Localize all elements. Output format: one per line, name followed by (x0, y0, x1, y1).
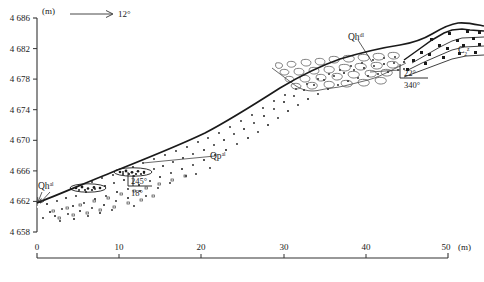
y-tick-label-4658: 4 658 (10, 227, 31, 237)
y-tick-label-4678: 4 678 (10, 74, 31, 84)
unit-qh-upper-base: Qh (348, 32, 360, 42)
y-axis-unit-label: (m) (42, 6, 55, 16)
dip-left-top-value: 245° (131, 176, 147, 186)
x-tick-label-30: 30 (280, 242, 290, 252)
dip-left-bottom-value: 18° (131, 188, 143, 198)
x-tick-label-0: 0 (35, 242, 40, 252)
legend-slope-symbol: 12° (70, 9, 131, 19)
unit-label-qh-upper: Qhdl (348, 32, 364, 43)
x-tick-label-10: 10 (115, 242, 125, 252)
x-axis: 0 10 20 30 40 50 (m) (35, 242, 471, 258)
x-tick-label-50: 50 (442, 242, 452, 252)
x-tick-label-20: 20 (197, 242, 207, 252)
legend-slope-label: 12° (118, 9, 131, 19)
unit-qh-lower-base: Qh (38, 181, 50, 191)
x-tick-label-40: 40 (362, 242, 372, 252)
unit-label-qp: Qpal (210, 151, 226, 162)
svg-text:Qhal: Qhal (38, 181, 54, 192)
x-axis-unit-label: (m) (458, 242, 471, 252)
y-tick-label-4674: 4 674 (10, 105, 31, 115)
dip-right-top-value: 22° (404, 68, 416, 78)
cross-section-svg: 4 686 4 682 4 678 4 674 4 670 4 666 4 66… (0, 0, 484, 282)
svg-text:Qpal: Qpal (210, 151, 226, 162)
unit-qp-sup: al (222, 151, 226, 157)
unit-qh-upper-sup: dl (360, 32, 365, 38)
figure-root: 4 686 4 682 4 678 4 674 4 670 4 666 4 66… (0, 0, 484, 282)
svg-text:Qhdl: Qhdl (348, 32, 364, 43)
y-tick-label-4686: 4 686 (10, 13, 31, 23)
y-axis: 4 686 4 682 4 678 4 674 4 670 4 666 4 66… (10, 6, 55, 237)
dip-right-bottom-value: 340° (404, 80, 420, 90)
unit-qp-base: Qp (210, 151, 222, 161)
y-tick-label-4662: 4 662 (10, 196, 30, 206)
y-tick-label-4666: 4 666 (10, 166, 31, 176)
y-tick-label-4682: 4 682 (10, 44, 30, 54)
y-tick-label-4670: 4 670 (10, 135, 31, 145)
qh-lower-clasts (52, 175, 186, 219)
dip-measurement-left: 245° 18° (128, 172, 152, 198)
bedrock-c2z (404, 29, 484, 80)
unit-qh-lower-sup: al (50, 181, 54, 187)
ground-surface-line (37, 23, 484, 203)
